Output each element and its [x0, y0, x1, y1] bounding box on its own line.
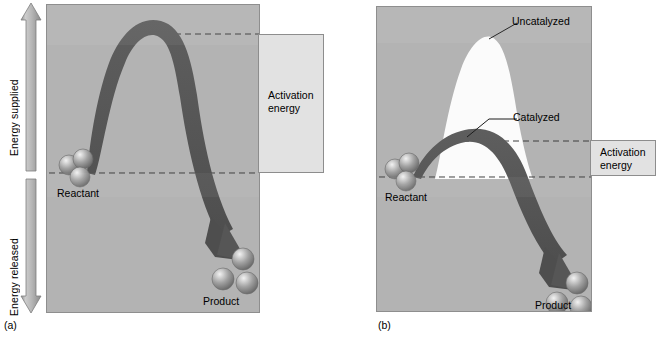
- energy-axis: Energy supplied Energy released: [0, 0, 46, 320]
- panel-a-activation-energy-line1: Activation: [268, 89, 314, 102]
- arrow-down-icon: [21, 179, 41, 313]
- panel-a-reactant-label: Reactant: [57, 187, 99, 199]
- activation-energy-figure: Energy supplied Energy released: [0, 0, 656, 345]
- panel-b-product-label: Product: [535, 299, 571, 311]
- arrow-up-icon: [21, 3, 41, 171]
- panel-b-uncatalyzed-label: Uncatalyzed: [512, 15, 570, 27]
- reaction-curve-arrow-icon: [87, 20, 247, 261]
- panel-a-activation-energy-line2: energy: [268, 102, 300, 115]
- panel-b-activation-energy-line1: Activation: [600, 146, 646, 159]
- panel-b-catalyzed-reaction: Reactant Product: [376, 6, 592, 312]
- energy-supplied-label: Energy supplied: [8, 36, 20, 156]
- panel-a-activation-energy-callout: Activation energy: [258, 34, 324, 173]
- energy-axis-arrows: [0, 0, 46, 320]
- energy-released-label: Energy released: [8, 196, 20, 316]
- panel-b-caption: (b): [378, 319, 391, 331]
- panel-b-activation-energy-callout: Activation energy: [590, 140, 656, 176]
- panel-b-activation-energy-line2: energy: [600, 159, 632, 172]
- panel-b-reactant-label: Reactant: [385, 191, 427, 203]
- reaction-curve-arrow-icon: [413, 129, 581, 291]
- panel-b-graphics: [377, 7, 591, 311]
- panel-b-catalyzed-label: Catalyzed: [513, 111, 560, 123]
- panel-a-product-label: Product: [203, 295, 239, 307]
- panel-a-graphics: [47, 5, 259, 312]
- panel-a-uncatalyzed-reaction: Reactant Product: [46, 4, 260, 313]
- panel-a-caption: (a): [4, 319, 17, 331]
